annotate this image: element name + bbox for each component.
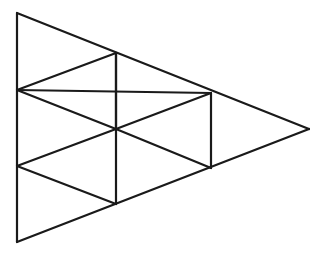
background	[0, 0, 327, 258]
subdivided-triangle-diagram	[0, 0, 327, 258]
